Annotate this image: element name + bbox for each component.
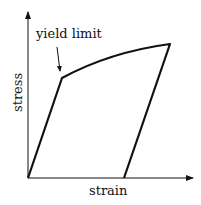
yield-arrow-icon <box>57 47 60 71</box>
y-axis-label: stress <box>10 73 25 112</box>
x-axis-label: strain <box>89 183 128 198</box>
stress-strain-diagram: yield limit strain stress <box>0 0 201 205</box>
yield-limit-label: yield limit <box>35 26 103 41</box>
stress-strain-curve <box>28 44 170 178</box>
